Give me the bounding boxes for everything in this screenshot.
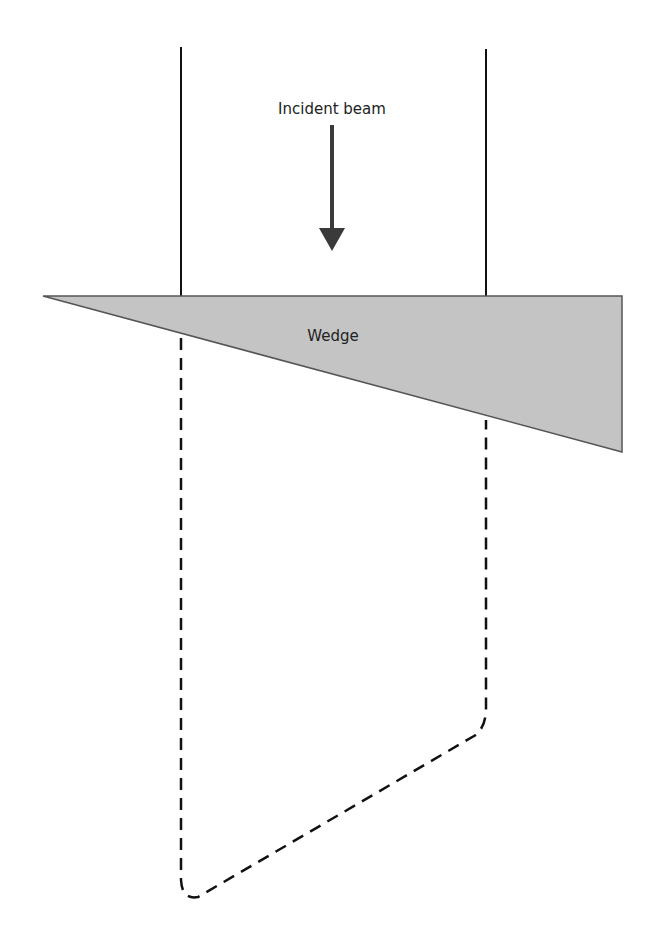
wedge-label: Wedge	[307, 327, 358, 345]
wedge-shape	[43, 296, 622, 452]
incident-beam-label: Incident beam	[278, 100, 386, 118]
wedge-diagram: Incident beam Wedge	[0, 0, 647, 936]
incident-beam-arrow-head	[319, 228, 345, 251]
transmitted-beam-outline	[181, 338, 486, 897]
